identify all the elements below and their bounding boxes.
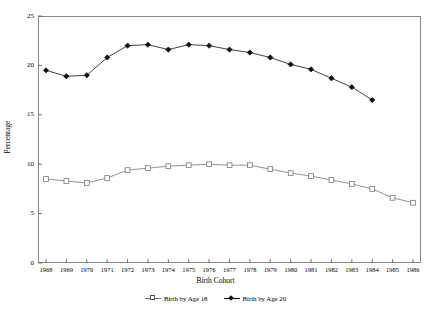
y-axis-tick-label: 5 [6, 210, 34, 217]
x-axis-tick-label: 1983 [345, 266, 358, 274]
y-axis-tick-label: 0 [6, 260, 34, 267]
data-point-marker-diamond [206, 43, 211, 48]
data-point-marker-square [329, 178, 334, 183]
series-line-1 [46, 164, 413, 203]
data-point-marker-diamond [308, 67, 313, 72]
x-axis-tick-label: 1986 [407, 266, 420, 274]
x-axis-tick-label: 1970 [80, 266, 93, 274]
legend-item-birth-by-age-18[interactable]: Birth by Age 18 [145, 294, 208, 303]
x-axis-tick-label: 1976 [203, 266, 216, 274]
data-point-marker-diamond [186, 42, 191, 47]
x-axis-tick-label: 1969 [60, 266, 73, 274]
data-point-marker-diamond [43, 68, 48, 73]
data-point-marker-square [309, 174, 314, 179]
data-point-marker-square [44, 177, 49, 182]
x-axis-tick-label: 1985 [386, 266, 399, 274]
data-point-marker-square [247, 163, 252, 168]
data-point-marker-square [227, 163, 232, 168]
data-point-marker-diamond [125, 43, 130, 48]
data-point-marker-square [186, 163, 191, 168]
legend-item-birth-by-age-20[interactable]: Birth by Age 20 [224, 294, 287, 303]
data-point-marker-diamond [64, 74, 69, 79]
data-point-marker-square [125, 168, 130, 173]
data-point-marker-square [146, 166, 151, 171]
data-point-marker-square [207, 162, 212, 167]
x-axis-tick-label: 1973 [141, 266, 154, 274]
data-point-marker-diamond [288, 62, 293, 67]
x-axis-tick-label: 1974 [162, 266, 175, 274]
data-point-marker-diamond [329, 76, 334, 81]
data-point-marker-square [105, 176, 110, 181]
data-point-marker-diamond [145, 42, 150, 47]
x-axis-tick-label: 1978 [243, 266, 256, 274]
legend-label: Birth by Age 18 [164, 294, 208, 303]
x-axis-tick-label: 1975 [182, 266, 195, 274]
line-chart: 0510152025 19681969197019711972197319741… [0, 0, 431, 319]
x-axis-tick-label: 1981 [305, 266, 318, 274]
series-line-2 [46, 45, 372, 100]
x-axis-tick-label: 1977 [223, 266, 236, 274]
data-point-marker-square [370, 187, 375, 192]
data-point-marker-square [166, 164, 171, 169]
x-axis-tick-label: 1968 [40, 266, 53, 274]
data-point-marker-diamond [247, 50, 252, 55]
x-axis-tick-label: 1984 [366, 266, 379, 274]
x-axis-tick-label: 1972 [121, 266, 134, 274]
y-axis-title: Percentage [3, 102, 13, 172]
data-point-marker-square [411, 200, 416, 205]
y-axis-tick-label: 25 [6, 13, 34, 20]
legend-marker-filled-diamond-icon [224, 294, 240, 302]
data-point-marker-square [390, 195, 395, 200]
data-point-marker-square [84, 181, 89, 186]
data-point-marker-diamond [166, 47, 171, 52]
data-point-marker-diamond [227, 47, 232, 52]
data-point-marker-square [288, 171, 293, 176]
legend-label: Birth by Age 20 [243, 294, 287, 303]
chart-legend: Birth by Age 18 Birth by Age 20 [0, 290, 431, 306]
x-axis-tick-label: 1982 [325, 266, 338, 274]
x-axis-tick-label: 1980 [284, 266, 297, 274]
data-point-marker-diamond [268, 55, 273, 60]
data-point-marker-diamond [349, 84, 354, 89]
data-point-marker-square [349, 182, 354, 187]
x-axis-tick-label: 1979 [264, 266, 277, 274]
y-axis-tick-label: 20 [6, 62, 34, 69]
legend-marker-open-square-icon [145, 294, 161, 302]
data-point-marker-square [64, 179, 69, 184]
x-axis-tick-label: 1971 [101, 266, 114, 274]
data-point-marker-square [268, 167, 273, 172]
x-axis-title: Birth Cohort [0, 276, 431, 286]
data-point-marker-diamond [370, 97, 375, 102]
